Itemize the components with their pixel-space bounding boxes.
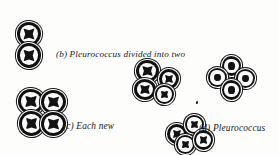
pleurococcus-figure: (b) Pleurococcus divided into two (c) Ea… bbox=[0, 0, 279, 155]
stray-ink-mark bbox=[196, 101, 198, 104]
pleurococcus-cell bbox=[155, 85, 174, 104]
caption-panel-c: (c) Each new cell divides again bbox=[63, 98, 116, 155]
caption-line: (d) Pleurococcus bbox=[199, 123, 265, 134]
caption-panel-d: (d) Pleurococcus in groups of four bbox=[199, 100, 265, 155]
cell-cluster-middle-group bbox=[134, 60, 190, 106]
cell-cluster-divided-pair bbox=[15, 22, 47, 72]
caption-line: (c) Each new bbox=[63, 121, 116, 132]
caption-line: (b) Pleurococcus divided into two bbox=[56, 49, 185, 60]
pleurococcus-cell bbox=[134, 79, 156, 100]
pleurococcus-cell bbox=[17, 43, 41, 68]
pleurococcus-cell bbox=[176, 135, 195, 154]
cell-cluster-rosette-of-four bbox=[208, 56, 258, 104]
pleurococcus-cell bbox=[222, 80, 241, 100]
